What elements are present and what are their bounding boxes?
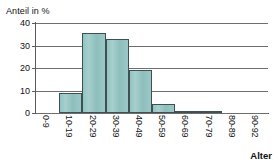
x-tick-label: 80-89 [227,115,237,138]
x-tick-label: 70-79 [204,115,214,138]
bar [175,111,198,113]
x-tick-label: 40-49 [134,115,144,138]
bar [82,33,105,113]
bar [106,39,129,113]
plot-area: 010203040 [36,23,268,113]
bar [152,104,175,113]
x-tick-label: 90-92 [250,115,260,138]
x-tick-label: 60-69 [180,115,190,138]
y-tick-label: 0 [25,108,30,118]
y-tick-label: 20 [20,63,30,73]
bar [129,70,152,113]
x-axis-ticks: 0-910-1920-2930-3940-4950-5960-6970-7980… [36,115,268,151]
gridline [36,113,268,114]
y-tick-label: 10 [20,86,30,96]
y-tick-label: 30 [20,41,30,51]
y-axis-title: Anteil in % [6,6,50,16]
x-tick-label: 10-19 [64,115,74,138]
x-tick-label: 0-9 [41,115,51,128]
bar [198,111,221,113]
x-tick-label: 30-39 [111,115,121,138]
x-axis-title: Alter [250,150,272,161]
x-tick-label: 50-59 [157,115,167,138]
x-tick-label: 20-29 [88,115,98,138]
histogram-chart: Anteil in % 010203040 0-910-1920-2930-39… [0,0,280,163]
bar-series [36,23,268,113]
y-tick-label: 40 [20,18,30,28]
y-tick-mark [32,113,36,114]
bar [59,93,82,113]
